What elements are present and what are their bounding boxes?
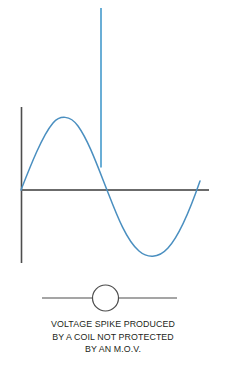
caption-line-2: BY A COIL NOT PROTECTED [9, 331, 217, 344]
sine-wave-icon [21, 117, 200, 256]
circle-coil-symbol [93, 285, 119, 311]
caption-line-1: VOLTAGE SPIKE PRODUCED [9, 318, 217, 331]
caption-line-3: BY AN M.O.V. [9, 343, 217, 356]
figure-root: VOLTAGE SPIKE PRODUCED BY A COIL NOT PRO… [0, 0, 226, 377]
figure-caption: VOLTAGE SPIKE PRODUCED BY A COIL NOT PRO… [0, 318, 226, 356]
